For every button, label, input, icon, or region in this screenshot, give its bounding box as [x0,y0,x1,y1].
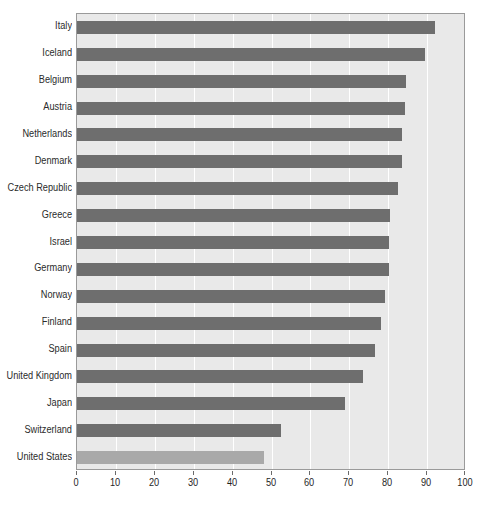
bar-row [77,363,464,390]
bar-row [77,283,464,310]
category-label: Denmark [6,155,72,166]
bar [77,155,402,168]
x-tick-mark [76,471,77,475]
category-axis-labels: ItalyIcelandBelgiumAustriaNetherlandsDen… [0,13,72,470]
category-label: Greece [6,209,72,220]
bar-row [77,122,464,149]
bar [77,424,281,437]
x-tick-mark [387,471,388,475]
bar-chart: ItalyIcelandBelgiumAustriaNetherlandsDen… [0,0,483,506]
x-tick-mark [115,471,116,475]
bar [77,209,390,222]
bar-row [77,390,464,417]
bar [77,290,385,303]
category-label: Israel [6,236,72,247]
bar [77,451,264,464]
bar [77,128,402,141]
bar-row [77,310,464,337]
category-label: Switzerland [6,424,72,435]
bar-row [77,202,464,229]
category-label: Czech Republic [6,182,72,193]
x-tick-label: 0 [73,477,78,488]
bar [77,48,425,61]
bar [77,182,398,195]
category-label: Belgium [6,74,72,85]
x-tick-mark [309,471,310,475]
x-tick-label: 10 [110,477,120,488]
bar-row [77,68,464,95]
bar-row [77,41,464,68]
category-label: Japan [6,397,72,408]
bar-row [77,417,464,444]
bar [77,102,405,115]
x-tick-mark [426,471,427,475]
bar [77,370,363,383]
x-axis: 0102030405060708090100 [76,471,465,495]
category-label: Iceland [6,47,72,58]
x-tick-label: 40 [226,477,236,488]
category-label: Finland [6,316,72,327]
bar [77,344,375,357]
plot-area [76,13,465,470]
x-tick-label: 90 [421,477,431,488]
x-tick-label: 60 [304,477,314,488]
category-label: Netherlands [6,128,72,139]
bar [77,75,406,88]
category-label: Germany [6,262,72,273]
x-tick-label: 50 [265,477,275,488]
x-tick-mark [154,471,155,475]
x-tick-label: 20 [149,477,159,488]
bar [77,263,389,276]
bar-row [77,229,464,256]
x-tick-mark [271,471,272,475]
bar [77,236,389,249]
bar [77,21,435,34]
category-label: Spain [6,343,72,354]
category-label: United Kingdom [6,370,72,381]
category-label: Austria [6,101,72,112]
x-tick-mark [464,471,465,475]
bar-row [77,444,464,470]
bar-row [77,148,464,175]
x-tick-label: 70 [343,477,353,488]
bar-row [77,95,464,122]
bar-row [77,175,464,202]
category-label: Norway [6,289,72,300]
category-label: Italy [6,20,72,31]
bar-row [77,337,464,364]
x-tick-label: 30 [188,477,198,488]
x-tick-label: 100 [457,477,472,488]
category-label: United States [6,451,72,462]
bar-row [77,14,464,41]
x-tick-mark [193,471,194,475]
bar [77,397,345,410]
x-tick-label: 80 [382,477,392,488]
bar [77,317,381,330]
x-tick-mark [348,471,349,475]
bar-row [77,256,464,283]
bar-rows [77,14,464,469]
x-tick-mark [232,471,233,475]
